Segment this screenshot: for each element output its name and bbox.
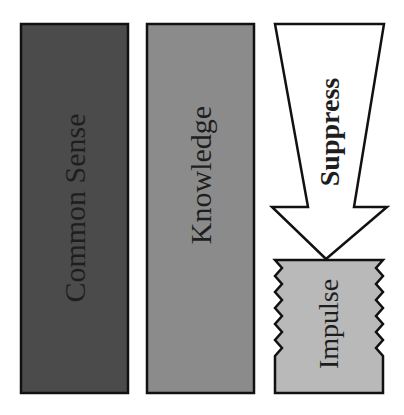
impulse-box: Impulse [275,260,383,393]
common-sense-column: Common Sense [21,24,128,393]
suppress-label: Suppress [314,78,345,187]
common-sense-label: Common Sense [58,113,91,302]
impulse-label: Impulse [313,279,344,369]
diagram-canvas: Common Sense Knowledge Suppress Impulse [0,0,404,415]
suppress-arrow: Suppress [272,24,387,259]
knowledge-label: Knowledge [184,106,217,244]
knowledge-column: Knowledge [147,24,254,393]
